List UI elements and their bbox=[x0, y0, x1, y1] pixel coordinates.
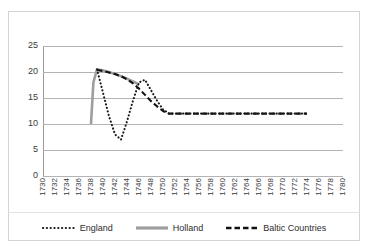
chart-legend: England Holland Baltic Countries bbox=[8, 215, 360, 241]
x-tick-label-1766: 1766 bbox=[255, 178, 263, 196]
x-axis-labels: 1730173217341736173817401742174417461748… bbox=[43, 178, 343, 220]
x-tick-label-1756: 1756 bbox=[195, 178, 203, 196]
y-tick-label-15: 15 bbox=[4, 93, 38, 102]
x-tick-label-1760: 1760 bbox=[219, 178, 227, 196]
x-tick-label-1772: 1772 bbox=[291, 178, 299, 196]
y-tick-label-0: 0 bbox=[4, 171, 38, 180]
legend-entry-england: England bbox=[42, 223, 113, 233]
y-tick-label-25: 25 bbox=[4, 41, 38, 50]
series-line-baltic-countries bbox=[97, 70, 307, 114]
y-tick-label-5: 5 bbox=[4, 145, 38, 154]
x-tick-label-1770: 1770 bbox=[279, 178, 287, 196]
x-tick-label-1768: 1768 bbox=[267, 178, 275, 196]
x-tick-label-1774: 1774 bbox=[303, 178, 311, 196]
series-layer bbox=[43, 46, 343, 176]
legend-divider bbox=[8, 212, 360, 213]
x-tick-label-1740: 1740 bbox=[99, 178, 107, 196]
x-tick-label-1746: 1746 bbox=[135, 178, 143, 196]
x-tick-label-1754: 1754 bbox=[183, 178, 191, 196]
x-tick-label-1742: 1742 bbox=[111, 178, 119, 196]
legend-entry-baltic-countries: Baltic Countries bbox=[225, 223, 326, 233]
x-tick-label-1776: 1776 bbox=[315, 178, 323, 196]
x-tick-label-1730: 1730 bbox=[39, 178, 47, 196]
legend-label-holland: Holland bbox=[173, 223, 204, 233]
chart-figure: 0510152025 17301732173417361738174017421… bbox=[0, 0, 370, 252]
y-tick-label-20: 20 bbox=[4, 67, 38, 76]
x-tick-label-1738: 1738 bbox=[87, 178, 95, 196]
x-tick-label-1780: 1780 bbox=[339, 178, 347, 196]
x-tick-label-1778: 1778 bbox=[327, 178, 335, 196]
series-line-holland bbox=[91, 69, 139, 124]
x-tick-label-1734: 1734 bbox=[63, 178, 71, 196]
dashed-line-swatch-icon bbox=[225, 224, 259, 232]
dotted-line-swatch-icon bbox=[42, 224, 76, 232]
solid-line-swatch-icon bbox=[135, 224, 169, 232]
x-tick-label-1752: 1752 bbox=[171, 178, 179, 196]
legend-entry-holland: Holland bbox=[135, 223, 204, 233]
x-tick-label-1748: 1748 bbox=[147, 178, 155, 196]
x-tick-label-1758: 1758 bbox=[207, 178, 215, 196]
x-tick-label-1764: 1764 bbox=[243, 178, 251, 196]
x-tick-label-1750: 1750 bbox=[159, 178, 167, 196]
x-tick-label-1762: 1762 bbox=[231, 178, 239, 196]
x-tick-label-1732: 1732 bbox=[51, 178, 59, 196]
x-tick-label-1736: 1736 bbox=[75, 178, 83, 196]
legend-label-baltic-countries: Baltic Countries bbox=[263, 223, 326, 233]
y-tick-label-10: 10 bbox=[4, 119, 38, 128]
x-tick-label-1744: 1744 bbox=[123, 178, 131, 196]
legend-label-england: England bbox=[80, 223, 113, 233]
